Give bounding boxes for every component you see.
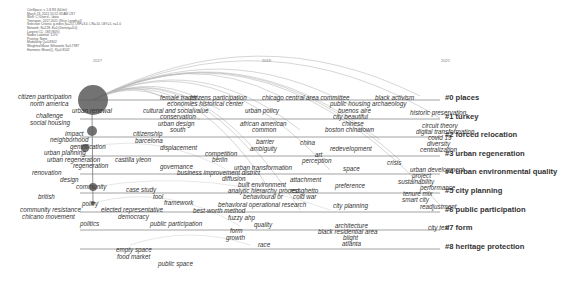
keyword-label[interactable]: citizenship [133, 130, 162, 137]
keyword-label[interactable]: british [38, 193, 55, 200]
keyword-label[interactable]: elected representative [101, 206, 163, 213]
keyword-label[interactable]: redevelopment [330, 145, 372, 152]
keyword-label[interactable]: north america [30, 100, 69, 107]
network-summary: CiteSpace, v. 5.8.R3 (64-bit)March 23, 2… [27, 9, 121, 52]
keyword-label[interactable]: citizen participation [18, 93, 72, 100]
year-label: 2017 [93, 58, 102, 63]
keyword-label[interactable]: growth [226, 234, 245, 241]
keyword-label[interactable]: city planning [333, 202, 368, 209]
keyword-label[interactable]: space [343, 165, 360, 172]
keyword-label[interactable]: urban renewal [72, 107, 112, 114]
keyword-label[interactable]: public participation [150, 220, 202, 227]
keyword-label[interactable]: democracy [118, 213, 149, 220]
keyword-label[interactable]: cold war [293, 193, 316, 200]
keyword-label[interactable]: quality [254, 221, 272, 228]
keyword-label[interactable]: berlin [212, 156, 227, 163]
keyword-label[interactable]: fuzzy ahp [228, 214, 255, 221]
keyword-label[interactable]: public space [158, 260, 193, 267]
keyword-label[interactable]: public housing archaeology [330, 100, 406, 107]
keyword-label[interactable]: challenge [36, 112, 63, 119]
keyword-label[interactable]: economies historical center [167, 100, 243, 107]
keyword-label[interactable]: business improvement district [177, 169, 260, 176]
cluster-label[interactable]: #8 heritage protection [445, 242, 524, 251]
keyword-label[interactable]: attachment [290, 176, 321, 183]
keyword-label[interactable]: framework [164, 199, 193, 206]
cluster-label[interactable]: #2 forced relocation [445, 130, 517, 139]
keyword-label[interactable]: tool [153, 193, 163, 200]
keyword-label[interactable]: urban planning [44, 149, 86, 156]
keyword-label[interactable]: ambiguity [250, 145, 277, 152]
cluster-label[interactable]: #4 urban environmental quality [445, 167, 557, 176]
keyword-label[interactable]: common [252, 126, 276, 133]
timeline-view: CiteSpace, v. 5.8.R3 (64-bit)March 23, 2… [0, 0, 574, 285]
year-label: 2019 [262, 58, 271, 63]
cluster-label[interactable]: #6 public participation [445, 205, 526, 214]
keyword-label[interactable]: barrier [256, 138, 274, 145]
cluster-label[interactable]: #0 places [445, 93, 479, 102]
keyword-label[interactable]: castilla yleon [115, 156, 151, 163]
keyword-label[interactable]: design [60, 176, 79, 183]
cluster-label[interactable]: #3 urban regeneration [445, 149, 525, 158]
keyword-label[interactable]: china [300, 139, 315, 146]
keyword-label[interactable]: behavioural or [243, 193, 283, 200]
cluster-label[interactable]: #7 form [445, 223, 472, 232]
year-label: 2021 [441, 58, 450, 63]
keyword-label[interactable]: displacement [160, 144, 197, 151]
keyword-label[interactable]: policy [82, 200, 98, 207]
keyword-label[interactable]: politics [80, 220, 99, 227]
keyword-label[interactable]: form [230, 227, 243, 234]
keyword-label[interactable]: case study [126, 186, 156, 193]
keyword-label[interactable]: urban policy [245, 107, 279, 114]
keyword-label[interactable]: race [258, 241, 270, 248]
keyword-label[interactable]: community resistance [20, 206, 81, 213]
keyword-label[interactable]: perception [302, 157, 331, 164]
keyword-node[interactable] [87, 126, 97, 136]
keyword-label[interactable]: preference [335, 182, 365, 189]
keyword-label[interactable]: atlanta [342, 240, 361, 247]
keyword-label[interactable]: empty space [116, 246, 152, 253]
keyword-label[interactable]: conservation [160, 113, 196, 120]
cluster-label[interactable]: #1 turkey [445, 112, 478, 121]
keyword-label[interactable]: best-worth method [193, 207, 245, 214]
cluster-label[interactable]: #5 city planning [445, 186, 502, 195]
keyword-label[interactable]: barcelona [135, 137, 163, 144]
keyword-label[interactable]: smart city [402, 196, 429, 203]
keyword-label[interactable]: neighborhood [50, 136, 89, 143]
keyword-label[interactable]: social housing [30, 119, 70, 126]
keyword-label[interactable]: regeneration [73, 162, 108, 169]
summary-line: Harmonic Mean(Q, S)=0.8142 [27, 49, 121, 53]
keyword-label[interactable]: crisis [387, 159, 401, 166]
keyword-label[interactable]: city beautiful [333, 113, 368, 120]
keyword-label[interactable]: boston chinatown [325, 126, 374, 133]
keyword-label[interactable]: renovation [32, 169, 61, 176]
keyword-label[interactable]: chicano movement [22, 213, 75, 220]
keyword-label[interactable]: south [170, 126, 185, 133]
keyword-label[interactable]: community [76, 183, 106, 190]
keyword-label[interactable]: food market [117, 253, 150, 260]
